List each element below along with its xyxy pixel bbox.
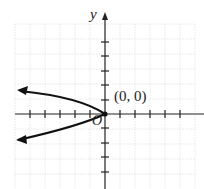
graph-canvas xyxy=(0,0,204,189)
origin-label: O xyxy=(92,113,102,129)
y-axis-arrow-icon xyxy=(102,12,108,20)
vertex-point xyxy=(102,111,107,116)
lower-arrowhead-icon xyxy=(16,135,27,144)
y-axis-label: y xyxy=(90,6,97,23)
y-axis xyxy=(101,16,109,189)
x-axis xyxy=(15,110,204,118)
upper-arrowhead-icon xyxy=(17,86,28,95)
vertex-label: (0, 0) xyxy=(114,88,147,105)
